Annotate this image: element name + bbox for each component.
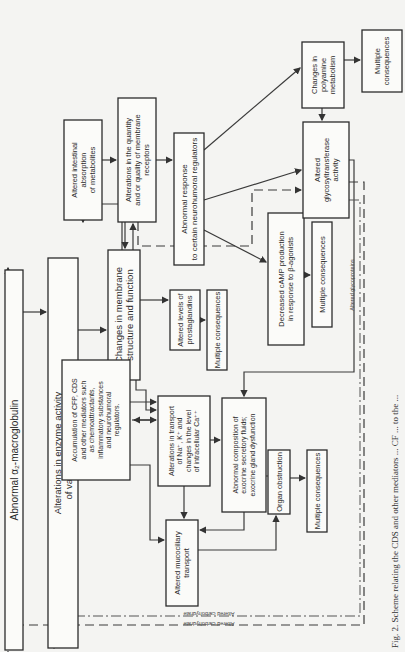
box-text-line: Multiple consequences — [213, 292, 222, 369]
box-text-line: and or quality of membrane — [133, 114, 142, 205]
label-altered-glycoproteins: Altered glycoproteins — [349, 259, 355, 311]
svg-text:Multiple consequences: Multiple consequences — [213, 292, 222, 369]
box-membrane-receptors: Alterations in the quantityand or qualit… — [118, 98, 156, 222]
box-text-line: absorption — [79, 152, 88, 187]
box-text-line: Changes in — [310, 56, 319, 94]
box-text-line: of metabolites — [88, 146, 97, 193]
box-text-line: Changes in membrane — [113, 267, 124, 363]
box-text-line: and neurohumoral — [105, 391, 112, 448]
box-multiple-consequences-camp: Multiple consequences — [312, 222, 332, 327]
box-text-line: and other mediators such — [80, 380, 87, 459]
svg-text:Multiple consequences: Multiple consequences — [318, 236, 327, 313]
box-text-line: of intracellular Ca⁺⁺ — [193, 410, 200, 472]
box-text-line: of Na⁺, K⁺ and — [176, 417, 183, 464]
svg-text:Alterations in transportof Na⁺: Alterations in transportof Na⁺, K⁺ andch… — [168, 406, 200, 476]
box-text-line: Multiple consequences — [313, 453, 322, 530]
box-text-line: polyamine — [319, 58, 328, 92]
box-text-line: Abnormal composition of — [232, 416, 240, 493]
box-organ-obstruction: Organ obstruction — [268, 450, 290, 514]
box-text-line: in response to β-agonists — [286, 237, 295, 321]
box-mucociliary-transport: Altered mucociliarytransport — [166, 520, 198, 606]
cf-pathogenesis-diagram: Abnormal α₂-macroglobulinAlterations in … — [0, 0, 405, 652]
box-text-line: Alterations in the quantity — [124, 118, 133, 202]
box-text-line: exocrine secretory fluids; — [240, 416, 248, 493]
box-text-line: structure and function — [124, 269, 135, 360]
box-text-line: Multiple consequences — [318, 236, 327, 313]
box-text-line: Altered intestinal — [70, 142, 79, 198]
box-text-line: Altered levels of — [176, 292, 185, 346]
box-text-line: Multiple — [373, 48, 382, 74]
box-text-line: Abnormal α₂-macroglobulin — [9, 400, 20, 521]
box-text-line: Accumulation of CFP, CDS — [71, 378, 78, 462]
box-text-line: Altered mucociliary — [173, 531, 182, 595]
svg-text:Multiple consequences: Multiple consequences — [313, 453, 322, 530]
box-text-line: regulators. — [113, 403, 121, 436]
box-text-line: Alterations in enzyme activity — [52, 392, 63, 515]
box-text-line: transport — [182, 547, 191, 578]
box-text-line: exocrine gland dysfunction — [249, 413, 257, 496]
box-text-line: as chemoattractants, — [88, 387, 95, 452]
box-text-line: Organ obstruction — [275, 452, 284, 512]
box-multiple-consequences-obstruction: Multiple consequences — [307, 450, 327, 532]
box-text-line: Alterations in transport — [168, 406, 176, 476]
box-text-line: activity — [331, 158, 340, 181]
box-text-line: Altered — [313, 158, 322, 182]
svg-text:Decreased cAMP productionin re: Decreased cAMP productionin response to … — [277, 231, 295, 326]
box-multiple-consequences-prostaglandins: Multiple consequences — [207, 290, 227, 370]
svg-text:Abnormal α₂-macroglobulin: Abnormal α₂-macroglobulin — [9, 400, 20, 521]
box-text-line: inflammatory substances — [97, 381, 105, 459]
svg-text:Changes in membranestructure a: Changes in membranestructure and functio… — [113, 267, 135, 363]
box-text-line: glycosyltransferase — [322, 138, 331, 202]
svg-text:Abnormal composition ofexocrin: Abnormal composition ofexocrine secretor… — [232, 413, 257, 496]
box-text-line: consequences — [382, 37, 391, 86]
figure-caption: Fig. 2. Scheme relating the CDS and othe… — [390, 395, 400, 648]
box-abnormal-neurohumoral-response: Abnormal responseto certain neurohumoral… — [174, 133, 204, 265]
box-text-line: Abnormal response — [180, 164, 189, 234]
box-ion-transport: Alterations in transportof Na⁺, K⁺ andch… — [158, 396, 210, 486]
box-accumulation-mediators: Accumulation of CFP, CDSand other mediat… — [62, 360, 130, 480]
box-text-line: receptors — [142, 144, 151, 176]
svg-text:Altered levels ofprostaglandin: Altered levels ofprostaglandins — [176, 292, 194, 346]
box-glycosyltransferase: Alteredglycosyltransferaseactivity — [303, 122, 349, 218]
box-exocrine-composition: Abnormal composition ofexocrine secretor… — [222, 398, 266, 512]
svg-text:Changes inpolyaminemetabolism: Changes inpolyaminemetabolism — [310, 56, 337, 94]
box-text-line: metabolism — [328, 56, 337, 94]
box-abnormal-alpha2-macroglobulin: Abnormal α₂-macroglobulin — [5, 270, 23, 650]
label-altered-carbohydrate-outer: Altered carbohydrate — [183, 621, 234, 627]
diagram-boxes: Abnormal α₂-macroglobulinAlterations in … — [5, 30, 402, 650]
svg-text:Organ obstruction: Organ obstruction — [275, 452, 284, 512]
box-multiple-consequences-polyamine: Multipleconsequences — [362, 30, 402, 92]
box-text-line: Decreased cAMP production — [277, 231, 286, 326]
box-polyamine-metabolism: Changes inpolyaminemetabolism — [302, 42, 344, 108]
box-text-line: to certain neurohumoral regulators — [190, 138, 199, 260]
box-text-line: changes in the level — [185, 410, 193, 472]
box-prostaglandins: Altered levels ofprostaglandins — [170, 290, 200, 350]
box-text-line: prostaglandins — [185, 295, 194, 344]
box-decreased-camp: Decreased cAMP productionin response to … — [268, 213, 304, 345]
box-intestinal-absorption: Altered intestinalabsorptionof metabolit… — [64, 120, 102, 220]
label-altered-carbohydrate-inner: Altered carbohydrate — [183, 611, 234, 617]
